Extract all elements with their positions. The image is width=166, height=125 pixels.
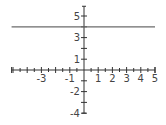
y-tick-label: 1: [74, 54, 80, 65]
y-tick-label: -4: [70, 108, 80, 119]
x-tick-label: -3: [36, 73, 46, 84]
x-tick-label: 1: [95, 73, 101, 84]
x-tick-label: 5: [152, 73, 158, 84]
x-tick-label: 2: [109, 73, 115, 84]
x-tick-label: 3: [123, 73, 129, 84]
axes: [12, 6, 155, 113]
x-tick-label: 4: [138, 73, 144, 84]
y-tick-label: 5: [74, 11, 80, 22]
y-tick-label: -2: [70, 86, 80, 97]
graph: -3-112345531-2-4: [0, 0, 166, 125]
y-tick-label: 3: [74, 32, 80, 43]
x-tick-label: -1: [65, 73, 75, 84]
